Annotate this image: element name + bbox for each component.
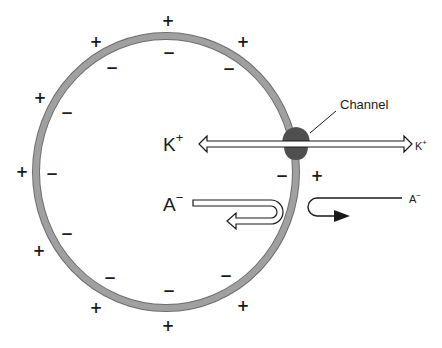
a-inside-uturn-arrow [193,200,283,229]
positive-charge-marker: + [162,319,175,334]
positive-charge-marker: + [237,299,250,314]
positive-charge-marker: + [237,35,250,50]
k-base: K [163,134,176,155]
positive-charge-marker: + [311,169,324,184]
a-ion-label-outside: A− [409,192,421,205]
channel-protein-bottom [284,147,308,160]
positive-charge-marker: + [90,301,103,316]
positive-charge-marker: + [162,14,175,29]
a-base: A [163,194,176,215]
positive-charge-marker: + [16,165,29,180]
negative-charge-marker: − [276,169,289,184]
positive-charge-marker: + [34,91,47,106]
negative-charge-marker: − [220,269,233,284]
k-ion-label-inside: K+ [163,133,183,154]
diagram-graphics [0,0,442,348]
a-ion-label-inside: A− [163,193,183,214]
negative-charge-marker: − [104,271,117,286]
channel-label: Channel [340,98,388,111]
a-charge: − [416,191,421,200]
negative-charge-marker: − [61,227,74,242]
membrane-potential-diagram: Channel K+ K+ A− A− ++++++++++−−−−−−−−−− [0,0,442,348]
positive-charge-marker: + [33,244,46,259]
negative-charge-marker: − [61,106,74,121]
negative-charge-marker: − [163,46,176,61]
a-outside-arrow [308,198,402,222]
positive-charge-marker: + [90,35,103,50]
a-charge: − [176,190,184,205]
channel-leader-line [310,111,336,133]
k-ion-label-outside: K+ [415,139,427,152]
negative-charge-marker: − [163,284,176,299]
k-charge: + [176,130,184,145]
negative-charge-marker: − [223,62,236,77]
k-charge: + [422,138,427,147]
negative-charge-marker: − [46,167,59,182]
negative-charge-marker: − [106,61,119,76]
